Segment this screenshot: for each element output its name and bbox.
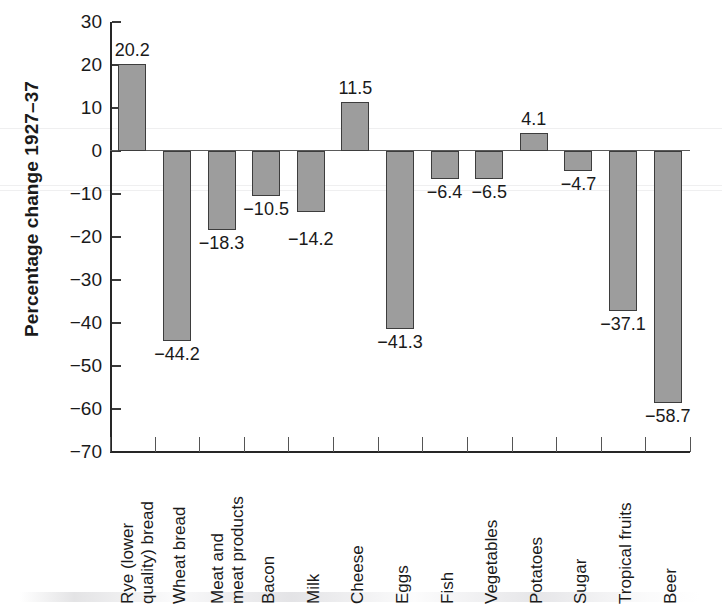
x-axis-category-label: Cheese (348, 545, 367, 604)
y-axis-tick-label: 10 (46, 98, 102, 117)
y-axis-tick-label: −20 (46, 227, 102, 246)
y-axis-tick-label: 0 (46, 141, 102, 160)
y-axis-tick-label: −30 (46, 270, 102, 289)
x-axis-tick-mark (690, 437, 691, 452)
x-axis-category-label: Sugar (571, 559, 590, 604)
category-label-line: Vegetables (482, 520, 501, 604)
x-axis-tick-mark (110, 437, 111, 452)
x-axis-category-label: Vegetables (482, 520, 501, 604)
y-axis-tick-label: −50 (46, 356, 102, 375)
category-label-line: Rye (lower (118, 501, 138, 604)
x-axis-tick-mark (199, 437, 200, 452)
bar (564, 151, 592, 171)
y-axis-tick-label: −70 (46, 442, 102, 461)
x-axis-tick-mark (467, 437, 468, 452)
x-axis-tick-mark (244, 437, 245, 452)
category-label-line: Cheese (348, 545, 367, 604)
category-label-line: Tropical fruits (616, 503, 635, 604)
bar (118, 64, 146, 151)
x-axis-tick-mark (288, 437, 289, 452)
category-label-line: Wheat bread (170, 507, 189, 604)
x-axis-category-label: Tropical fruits (616, 503, 635, 604)
y-axis-tick-label: 30 (46, 12, 102, 31)
category-label-line: Meat and (208, 496, 228, 604)
category-label-line: Sugar (571, 559, 590, 604)
bar-value-label: −37.1 (578, 315, 668, 333)
x-axis-category-label: Bacon (259, 556, 278, 604)
bar (520, 133, 548, 151)
bar (654, 151, 682, 403)
bar-value-label: 20.2 (87, 41, 177, 59)
bar (475, 151, 503, 179)
x-axis-category-label: Wheat bread (170, 507, 189, 604)
bar (386, 151, 414, 329)
x-axis-tick-mark (155, 437, 156, 452)
bar (252, 151, 280, 196)
x-axis-category-label: Eggs (393, 565, 412, 604)
category-label-line: Milk (304, 574, 323, 604)
y-axis-tick-mark (112, 365, 121, 367)
y-axis-title: Percentage change 1927–37 (21, 0, 43, 419)
bar (341, 102, 369, 151)
y-axis-tick-mark (112, 322, 121, 324)
x-axis-category-label: Milk (304, 574, 323, 604)
bar-value-label: 4.1 (489, 110, 579, 128)
y-axis-tick-mark (112, 236, 121, 238)
bar-value-label: −18.3 (177, 234, 267, 252)
y-axis-tick-labels: 3020100−10−20−30−40−50−60−70 (46, 0, 102, 614)
y-axis-tick-mark (112, 21, 121, 23)
x-axis-tick-mark (601, 437, 602, 452)
y-axis-tick-label: −40 (46, 313, 102, 332)
x-axis-category-label: Fish (438, 572, 457, 604)
x-axis-tick-mark (378, 437, 379, 452)
x-axis-tick-mark (512, 437, 513, 452)
bar-value-label: 11.5 (310, 79, 400, 97)
y-axis-tick-mark (112, 193, 121, 195)
category-label-line: Bacon (259, 556, 278, 604)
y-axis-tick-mark (112, 408, 121, 410)
category-label-line: quality) bread (138, 501, 158, 604)
category-label-line: Potatoes (527, 537, 546, 604)
bar-value-label: −6.5 (444, 183, 534, 201)
x-axis-tick-mark (645, 437, 646, 452)
x-axis-category-label: Rye (lowerquality) bread (118, 501, 158, 604)
bar-value-label: −4.7 (533, 175, 623, 193)
bar-value-label: −58.7 (623, 407, 713, 425)
bar-value-label: −44.2 (132, 345, 222, 363)
category-label-line: Fish (438, 572, 457, 604)
y-axis-tick-label: −10 (46, 184, 102, 203)
bar-chart: Percentage change 1927–37 3020100−10−20−… (0, 0, 722, 614)
x-axis-category-label: Meat andmeat products (208, 496, 248, 604)
x-axis-tick-mark (556, 437, 557, 452)
category-label-line: Eggs (393, 565, 412, 604)
category-label-line: meat products (228, 496, 248, 604)
x-axis-tick-mark (422, 437, 423, 452)
y-axis-tick-mark (112, 279, 121, 281)
x-axis-category-label: Potatoes (527, 537, 546, 604)
x-axis-category-label: Beer (661, 568, 680, 604)
bar-value-label: −41.3 (355, 333, 445, 351)
bar (431, 151, 459, 179)
category-label-line: Beer (661, 568, 680, 604)
bar-value-label: −10.5 (221, 200, 311, 218)
bar-value-label: −14.2 (266, 230, 356, 248)
y-axis-tick-label: −60 (46, 399, 102, 418)
x-axis-tick-mark (333, 437, 334, 452)
x-axis-line (110, 451, 690, 453)
